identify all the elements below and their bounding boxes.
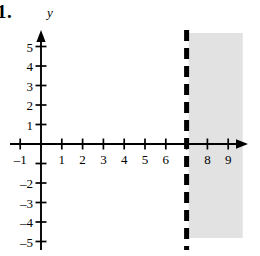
graph-figure: 1. y –112345689 54321–2–3–4–5 xyxy=(0,0,260,256)
y-tick-label: –5 xyxy=(11,235,33,248)
y-tick-label: 2 xyxy=(11,99,33,112)
x-tick-label: –1 xyxy=(14,153,27,166)
y-tick-label: –2 xyxy=(11,177,33,190)
y-axis xyxy=(36,30,45,250)
y-tick-label: 1 xyxy=(11,118,33,131)
y-tick-label: 3 xyxy=(11,79,33,92)
y-tick-label: 4 xyxy=(11,60,33,73)
x-tick-label: 6 xyxy=(163,153,170,166)
y-tick-label: 5 xyxy=(11,40,33,53)
x-tick-label: 2 xyxy=(79,153,86,166)
x-tick-label: 9 xyxy=(225,153,232,166)
x-tick-label: 5 xyxy=(142,153,149,166)
coordinate-plane xyxy=(0,0,260,256)
x-tick-label: 3 xyxy=(100,153,107,166)
x-tick-label: 1 xyxy=(59,153,66,166)
y-tick-label: –4 xyxy=(11,216,33,229)
x-tick-label: 4 xyxy=(121,153,128,166)
y-tick-label: –3 xyxy=(11,196,33,209)
x-tick-label: 8 xyxy=(204,153,211,166)
shaded-region xyxy=(189,33,243,238)
